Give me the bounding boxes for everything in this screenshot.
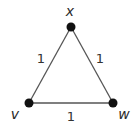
edge-labels-layer: 111 (37, 51, 104, 124)
vertex-label-x: x (65, 3, 75, 19)
vertex-label-v: v (11, 106, 20, 122)
edge-v-x (29, 27, 71, 103)
edge-x-w (71, 27, 113, 103)
vertex-label-w: w (118, 106, 130, 122)
vertex-x (67, 23, 76, 32)
edge-weight-label: 1 (37, 51, 45, 66)
vertex-v (25, 99, 34, 108)
vertex-w (109, 99, 118, 108)
graph-diagram: 111 xvw (0, 0, 137, 127)
edge-weight-label: 1 (96, 51, 104, 66)
edge-weight-label: 1 (67, 109, 75, 124)
